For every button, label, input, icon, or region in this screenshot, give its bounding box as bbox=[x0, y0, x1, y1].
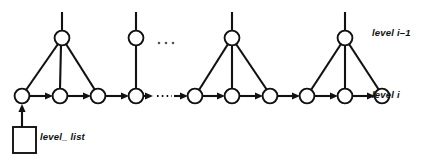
ellipsis-dot bbox=[172, 42, 175, 45]
level-list-box bbox=[13, 127, 36, 153]
node-circle bbox=[55, 31, 70, 46]
tree-edge bbox=[311, 44, 341, 90]
node-circle bbox=[188, 89, 203, 104]
list-head-pointer bbox=[13, 104, 36, 153]
node-circle bbox=[225, 31, 240, 46]
ellipsis-dot bbox=[165, 42, 168, 45]
node-circle bbox=[338, 89, 353, 104]
node-circle bbox=[129, 89, 144, 104]
tree-edge bbox=[199, 44, 228, 90]
node-circle bbox=[225, 89, 240, 104]
label-level-i-minus-1: level i–1 bbox=[372, 27, 411, 38]
diagram-canvas: level i–1 level i level_ list bbox=[0, 0, 427, 163]
label-level-i: level i bbox=[372, 89, 400, 100]
tree-fan-edges bbox=[26, 44, 379, 90]
tree-edge bbox=[26, 44, 58, 90]
node-circle bbox=[53, 89, 68, 104]
arrow-head bbox=[18, 104, 25, 112]
tree-edge bbox=[349, 44, 379, 90]
label-level-list: level_ list bbox=[40, 131, 85, 142]
node-circle bbox=[300, 89, 315, 104]
tree-edge bbox=[66, 44, 95, 90]
top-ellipsis bbox=[158, 42, 175, 45]
arrow-head bbox=[145, 92, 153, 99]
node-circle bbox=[263, 89, 278, 104]
top-stub-edges bbox=[62, 12, 345, 31]
top-row-nodes bbox=[55, 31, 353, 46]
node-circle bbox=[338, 31, 353, 46]
node-circle bbox=[91, 89, 106, 104]
tree-edge bbox=[236, 44, 267, 90]
node-circle bbox=[15, 89, 30, 104]
ellipsis-dot bbox=[158, 42, 161, 45]
node-circle bbox=[129, 31, 144, 46]
tree-edge bbox=[60, 45, 61, 89]
